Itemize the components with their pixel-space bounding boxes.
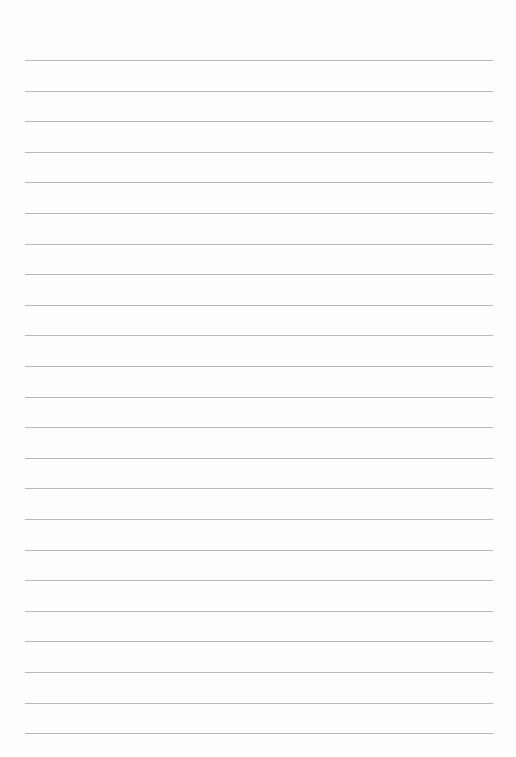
ruled-line [25,611,493,612]
ruled-line [25,152,493,153]
ruled-line [25,519,493,520]
ruled-line [25,397,493,398]
ruled-line [25,427,493,428]
ruled-line [25,366,493,367]
ruled-line [25,580,493,581]
ruled-line [25,60,493,61]
ruled-line [25,641,493,642]
ruled-line [25,274,493,275]
ruled-line [25,213,493,214]
ruled-line [25,550,493,551]
ruled-line [25,91,493,92]
ruled-line [25,672,493,673]
lined-page [0,0,516,757]
ruled-line [25,182,493,183]
ruled-line [25,335,493,336]
ruled-line [25,305,493,306]
ruled-line [25,121,493,122]
ruled-line [25,458,493,459]
ruled-line [25,244,493,245]
ruled-line [25,488,493,489]
ruled-line [25,703,493,704]
ruled-line [25,733,493,734]
